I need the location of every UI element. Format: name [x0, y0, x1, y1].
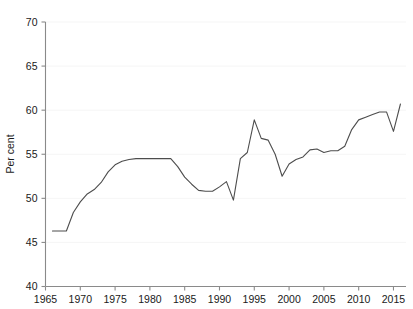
- x-tick-label: 1995: [243, 293, 267, 305]
- y-tick-label: 40: [26, 280, 38, 292]
- y-tick-label: 50: [26, 192, 38, 204]
- x-tick-label: 2005: [312, 293, 336, 305]
- x-tick-label: 1975: [103, 293, 127, 305]
- y-tick-label: 45: [26, 236, 38, 248]
- x-tick-label: 2015: [382, 293, 406, 305]
- chart-container: 40455055606570 1965197019751980198519901…: [0, 0, 413, 309]
- line-chart: 40455055606570 1965197019751980198519901…: [0, 0, 413, 309]
- x-tick-label: 1990: [208, 293, 232, 305]
- y-axis-title: Per cent: [4, 134, 16, 173]
- x-tick-label: 1965: [34, 293, 58, 305]
- x-tick-label: 2010: [347, 293, 371, 305]
- y-tick-label: 60: [26, 104, 38, 116]
- x-tick-label: 1970: [69, 293, 93, 305]
- y-tick-label: 70: [26, 16, 38, 28]
- x-tick-label: 2000: [277, 293, 301, 305]
- x-tick-label: 1980: [138, 293, 162, 305]
- y-tick-label: 55: [26, 148, 38, 160]
- x-tick-label: 1985: [173, 293, 197, 305]
- y-tick-label: 65: [26, 60, 38, 72]
